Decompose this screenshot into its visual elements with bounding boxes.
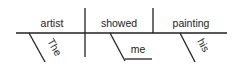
modifier-slant-the (29, 33, 45, 62)
subject-word: artist (41, 17, 64, 29)
indirect-object-slant (110, 33, 125, 61)
sentence-diagram: artist showed painting The me his (0, 0, 239, 66)
modifier-slant-his (180, 33, 195, 62)
modifier-word-the: The (45, 36, 64, 58)
modifier-word-his: his (195, 36, 212, 54)
verb-word: showed (101, 17, 137, 29)
direct-object-word: painting (173, 17, 210, 29)
indirect-object-word: me (131, 43, 146, 55)
